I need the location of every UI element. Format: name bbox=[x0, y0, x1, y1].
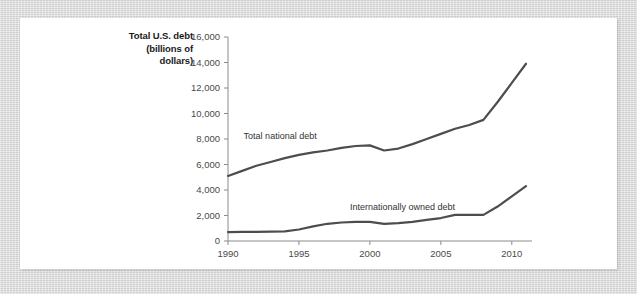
x-axis-tick-label: 2000 bbox=[359, 248, 380, 259]
y-axis-tick-label: 4,000 bbox=[196, 184, 220, 195]
x-axis: 19901995200020052010 bbox=[217, 241, 532, 259]
x-axis-tick-label: 2010 bbox=[501, 248, 522, 259]
x-axis-tick-label: 2005 bbox=[430, 248, 451, 259]
x-axis-tick-label: 1995 bbox=[288, 248, 309, 259]
y-axis-tick-label: 16,000 bbox=[191, 31, 220, 42]
series-label: Total national debt bbox=[244, 131, 318, 141]
x-axis-tick-label: 1990 bbox=[217, 248, 238, 259]
series-labels: Total national debtInternationally owned… bbox=[244, 131, 456, 212]
y-axis-tick-label: 6,000 bbox=[196, 159, 220, 170]
y-axis-tick-label: 0 bbox=[215, 235, 220, 246]
series-label: Internationally owned debt bbox=[350, 202, 456, 212]
line-chart: Total U.S. debt (billions of dollars) 02… bbox=[20, 18, 617, 269]
y-axis-tick-label: 10,000 bbox=[191, 108, 220, 119]
y-axis: 02,0004,0006,0008,00010,00012,00014,0001… bbox=[191, 31, 228, 246]
y-axis-tick-label: 2,000 bbox=[196, 210, 220, 221]
series-line bbox=[228, 64, 526, 176]
figure-card: Total U.S. debt (billions of dollars) 02… bbox=[20, 18, 617, 269]
y-axis-tick-label: 8,000 bbox=[196, 133, 220, 144]
chart-plot-area: 02,0004,0006,0008,00010,00012,00014,0001… bbox=[20, 18, 617, 269]
y-axis-tick-label: 12,000 bbox=[191, 82, 220, 93]
y-axis-tick-label: 14,000 bbox=[191, 57, 220, 68]
